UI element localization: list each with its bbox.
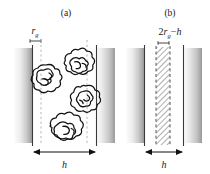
arrow-head-left	[145, 149, 152, 155]
panel-b-gap-label: h	[162, 159, 167, 170]
overlap-label: 2rg−h	[159, 26, 182, 39]
panel-a-left-surface	[14, 48, 32, 143]
rg-label: rg	[31, 25, 39, 38]
rg-tick-arrow	[30, 39, 41, 43]
rg-label-group: rg	[30, 25, 41, 43]
panel-b: (b) 2rg−h	[126, 8, 202, 170]
figure-root: (a) rg	[0, 0, 210, 174]
panel-b-label: (b)	[164, 8, 175, 19]
arrow-head-right	[176, 149, 183, 155]
panel-b-gap-arrow	[145, 149, 183, 155]
polymer-coil	[49, 111, 85, 142]
polymer-coils	[31, 46, 102, 142]
overlap-hatched-region	[156, 47, 170, 145]
figure-canvas: (a) rg	[0, 0, 210, 174]
panel-a: (a) rg	[14, 8, 115, 170]
panel-b-right-surface	[184, 48, 202, 143]
panel-a-gap-arrow	[33, 149, 96, 155]
overlap-tick-arrow	[158, 41, 169, 45]
panel-b-left-surface	[126, 48, 144, 143]
polymer-coil	[31, 65, 62, 93]
panel-a-gap-label: h	[62, 159, 67, 170]
polymer-coil	[62, 46, 97, 78]
overlap-term: h	[176, 26, 181, 37]
panel-a-label: (a)	[61, 8, 72, 19]
rg-subscript: g	[35, 31, 39, 38]
arrow-head-right	[89, 149, 96, 155]
arrow-head-left	[33, 149, 40, 155]
